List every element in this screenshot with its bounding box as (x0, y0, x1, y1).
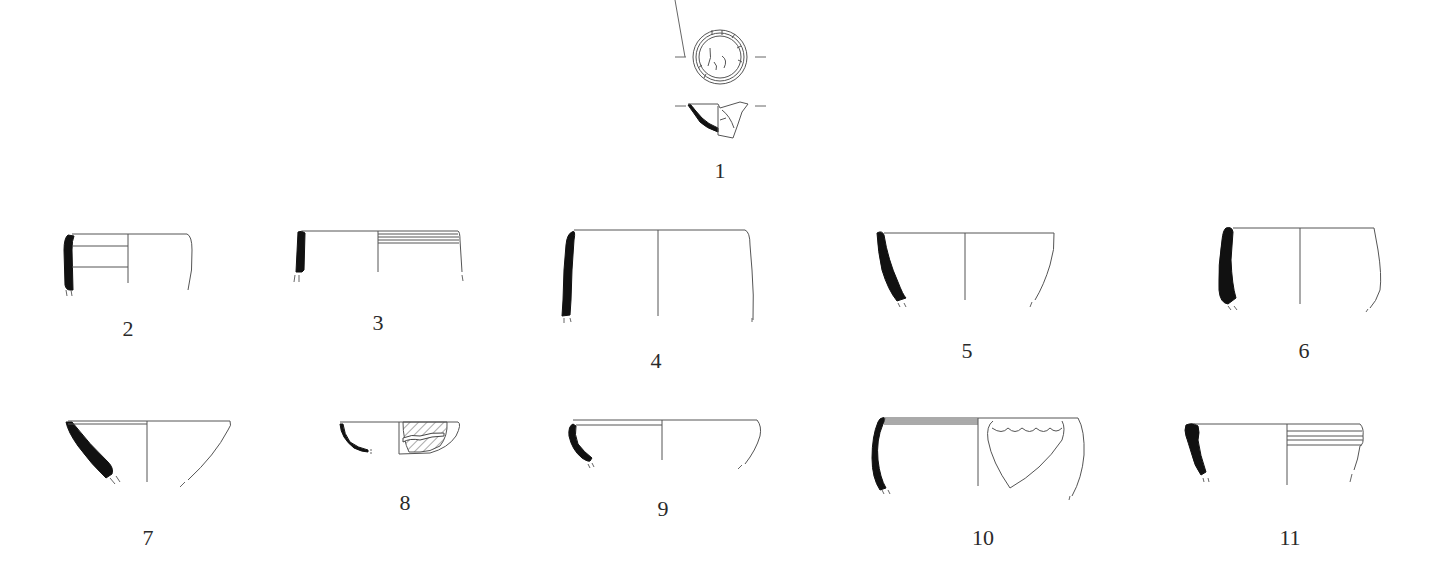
vessel-4-drawing (562, 230, 753, 323)
figure-label-8: 8 (400, 492, 411, 514)
vessel-1-drawing (675, 0, 766, 138)
figure-label-10: 10 (972, 527, 994, 549)
figure-label-9: 9 (658, 498, 669, 520)
figure-label-3: 3 (373, 312, 384, 334)
figure-label-6: 6 (1299, 340, 1310, 362)
vessel-11-drawing (1185, 424, 1363, 485)
figure-label-1: 1 (715, 160, 726, 182)
figure-label-5: 5 (962, 340, 973, 362)
vessel-5-drawing (877, 232, 1054, 307)
figure-label-2: 2 (123, 318, 134, 340)
pottery-plate: 1 2 3 4 5 6 7 8 9 10 11 (0, 0, 1433, 579)
vessel-3-drawing (294, 231, 463, 282)
vessel-9-drawing (569, 420, 761, 469)
vessel-8-drawing (340, 422, 460, 454)
vessel-10-drawing (872, 418, 1084, 500)
figure-label-4: 4 (651, 350, 662, 372)
vessel-7-drawing (66, 421, 231, 487)
pottery-drawings (0, 0, 1433, 579)
vessel-2-drawing (64, 234, 192, 296)
figure-label-7: 7 (143, 527, 154, 549)
figure-label-11: 11 (1279, 527, 1300, 549)
vessel-6-drawing (1219, 228, 1381, 313)
